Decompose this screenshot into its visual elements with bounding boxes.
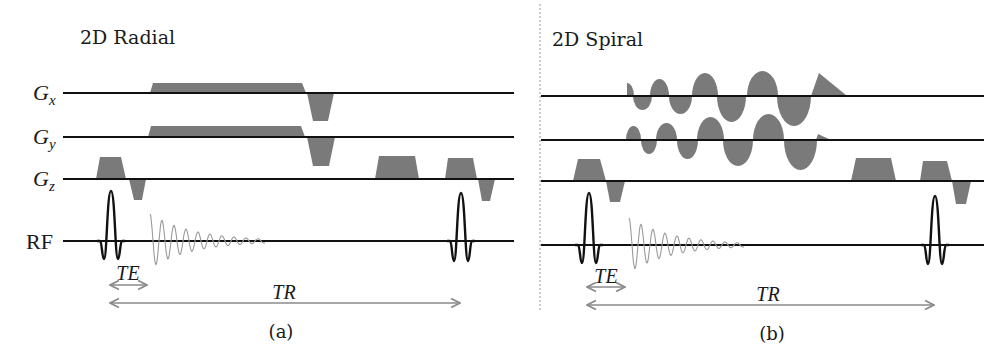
gz-refocus-2-gradient [952,181,971,204]
rf-pulse [97,191,125,259]
panel-title: 2D Spiral [552,28,643,50]
gx-spiral-lobe [747,71,778,96]
panel-title: 2D Radial [80,26,175,48]
gz-slice-select-1-gradient [96,157,126,179]
fid-waveform [629,218,744,269]
gx-spiral-lobe [717,96,746,122]
rf-pulse [921,196,949,264]
gx-spiral-lobe [650,79,669,96]
gx-spiral-lobe [627,83,634,96]
gz-slice-select-2-gradient [445,158,477,179]
gy-spiral-lobe [723,140,753,166]
axis-label-gz: Gz [33,166,55,194]
gy-readout-gradient [148,126,305,137]
gz-spoiler-gradient [851,158,896,181]
gradient-waveforms [573,71,971,204]
axis-label-gy: Gy [33,124,56,152]
gy-spiral-lobe [697,117,724,140]
gz-spoiler-gradient [375,156,419,179]
gx-spiral-lobe [669,96,692,114]
rf-pulse [575,193,603,263]
panel-2d-spiral: 2D Spiral TETR (b) [541,28,984,344]
gz-slice-select-1-gradient [573,159,606,181]
gz-refocus-1-gradient [606,181,625,202]
gz-slice-select-2-gradient [920,161,952,181]
timing-annotations: TETR [587,265,934,305]
te-label: TE [116,262,139,284]
te-label: TE [594,265,617,287]
gz-refocus-2-gradient [478,179,495,201]
axis-labels: GxGyGzRF [26,80,56,254]
gy-spiral-lobe [784,140,817,170]
axis-label-rf: RF [26,229,53,254]
gy-spiral-lobe [677,140,698,159]
panel-caption: (a) [269,321,294,342]
gx-rewind-ramp [811,73,847,96]
fid-waveform [150,214,265,265]
gx-rewinder-gradient [307,93,334,121]
gradient-waveforms [96,83,495,201]
panel-2d-radial: 2D Radial GxGyGzRF TETR (a) [26,26,514,342]
gx-spiral-lobe [777,96,811,126]
gy-spiral-lobe [656,123,677,140]
gy-spiral-lobe [641,140,657,154]
pulse-sequence-diagram: 2D Radial GxGyGzRF TETR (a) 2D Spiral TE… [0,0,1008,363]
timing-annotations: TETR [110,262,460,303]
gy-rewinder-gradient [307,137,335,166]
gy-spiral-lobe [753,114,784,140]
gx-spiral-lobe [633,96,652,110]
fid-signal [629,218,744,269]
gx-spiral-lobe [692,73,718,96]
rf-pulse [447,193,475,261]
panel-caption: (b) [759,323,785,344]
tr-label: TR [756,283,779,305]
gx-readout-gradient [150,83,306,93]
gy-spiral-lobe [626,126,641,140]
axis-baselines [63,93,514,241]
gz-refocus-1-gradient [129,179,146,200]
tr-label: TR [272,281,295,303]
axis-label-gx: Gx [33,80,56,108]
fid-signal [150,214,265,265]
